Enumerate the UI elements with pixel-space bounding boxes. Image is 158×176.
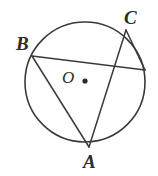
- center-point-dot: [82, 78, 87, 83]
- chord-b-to-a: [32, 56, 89, 147]
- center-label-o: O: [62, 69, 74, 86]
- chord-c-to-right-edge: [126, 30, 145, 70]
- vertex-label-a: A: [83, 152, 96, 171]
- vertex-label-c: C: [124, 8, 137, 27]
- vertex-label-b: B: [16, 34, 29, 53]
- chord-b-to-right-edge: [32, 56, 145, 70]
- geometry-figure: B C A O: [0, 0, 158, 176]
